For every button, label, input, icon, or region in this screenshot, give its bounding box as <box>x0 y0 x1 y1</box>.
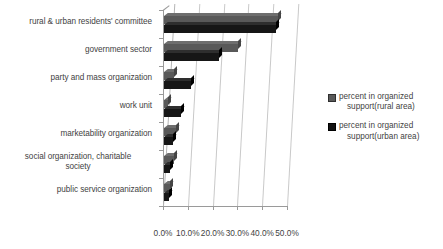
category-label: social organization, charitablesociety <box>2 152 154 171</box>
x-axis-tick <box>237 206 238 210</box>
bar-urban <box>164 137 173 145</box>
category-label: rural & urban residents' committee <box>0 17 152 27</box>
category-label: party and mass organization <box>0 73 152 83</box>
bar-side-face <box>276 19 279 30</box>
bar-urban <box>164 25 276 33</box>
x-axis-tick-label: 50.0% <box>270 228 304 238</box>
x-axis-tick-labels: 0.0%10.0%20.0%30.0%40.0%50.0% <box>155 228 355 242</box>
bar-front-face <box>164 137 173 145</box>
y-axis-tick <box>159 122 163 123</box>
bar-front-face <box>164 25 276 33</box>
plot-area <box>163 10 315 214</box>
gridline <box>188 4 200 206</box>
bar-side-face <box>170 159 173 170</box>
legend-label-rural-line2: support(rural area) <box>339 102 440 112</box>
y-axis-tick <box>159 38 163 39</box>
gridline <box>262 4 274 206</box>
gridline <box>213 4 225 206</box>
legend-label-urban-line1: percent in organized <box>339 121 440 131</box>
legend-item-rural[interactable]: percent in organized support(rural area) <box>328 92 440 112</box>
bar-side-face <box>174 66 177 77</box>
bar-side-face <box>168 94 171 105</box>
y-axis-tick <box>159 178 163 179</box>
x-axis-line <box>163 206 287 207</box>
x-axis-tick <box>287 206 288 210</box>
x-axis-tick <box>213 206 214 210</box>
category-axis-labels: rural & urban residents' committeegovern… <box>0 8 160 214</box>
bar-urban <box>164 53 219 61</box>
y-axis-tick <box>159 94 163 95</box>
x-axis-tick <box>262 206 263 210</box>
gridline <box>287 4 299 206</box>
bar-front-face <box>164 81 191 89</box>
y-axis-tick <box>159 66 163 67</box>
gridline <box>237 4 249 206</box>
y-axis-tick <box>159 150 163 151</box>
category-label: government sector <box>0 45 152 55</box>
bar-urban <box>164 109 181 117</box>
bar-side-face <box>176 122 179 133</box>
bar-front-face <box>164 193 169 201</box>
legend-item-urban[interactable]: percent in organized support(urban area) <box>328 121 440 141</box>
y-axis-tick <box>159 206 163 207</box>
bar-side-face <box>169 187 172 198</box>
bar-urban <box>164 165 170 173</box>
y-axis-depth-edge <box>163 5 170 11</box>
legend-label-rural-line1: percent in organized <box>339 92 440 102</box>
y-axis-tick <box>159 10 163 11</box>
bar-side-face <box>181 103 184 114</box>
bar-chart: rural & urban residents' committeegovern… <box>0 0 443 249</box>
legend-label-urban-line2: support(urban area) <box>339 132 440 142</box>
bar-urban <box>164 193 169 201</box>
bar-side-face <box>238 38 241 49</box>
bar-front-face <box>164 53 219 61</box>
bar-front-face <box>164 109 181 117</box>
category-label: marketability organization <box>0 129 152 139</box>
bar-urban <box>164 81 191 89</box>
x-axis-tick <box>163 206 164 210</box>
legend-swatch-rural-icon <box>328 94 336 102</box>
bar-side-face <box>173 131 176 142</box>
chart-legend: percent in organized support(rural area)… <box>328 92 440 151</box>
category-label: public service organization <box>0 185 152 195</box>
x-axis-tick <box>188 206 189 210</box>
bar-front-face <box>164 165 170 173</box>
bar-side-face <box>174 150 177 161</box>
category-label: work unit <box>0 101 152 111</box>
legend-swatch-urban-icon <box>328 123 336 131</box>
